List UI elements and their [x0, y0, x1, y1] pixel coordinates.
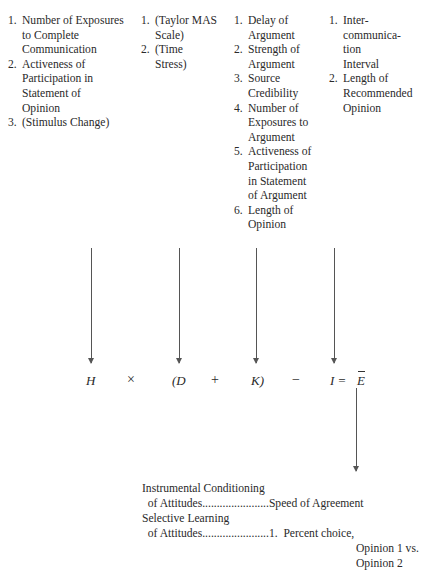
list-item: 3. (Stimulus Change): [8, 116, 158, 131]
list-item: 1. Number of Exposures to Complete Commu…: [8, 14, 158, 58]
equation-E: E: [357, 373, 365, 389]
list-item: 3. Source Credibility: [234, 72, 324, 101]
equation-K: K): [251, 373, 264, 389]
arrow-down-icon: [334, 248, 335, 363]
output-line-2: of Attitudes.......................Speed…: [142, 497, 364, 512]
column-inhibition-variables: 1. Inter- communica- tion Interval 2. Le…: [329, 14, 427, 116]
list-item: 6. Length of Opinion: [234, 204, 324, 233]
output-line-3: Selective Learning: [142, 512, 229, 527]
output-line-6: Opinion 2: [356, 557, 403, 572]
list-item: 2. (Time Stress): [141, 43, 231, 72]
list-item: 1. Delay of Argument: [234, 14, 324, 43]
list-item: 2. Strength of Argument: [234, 43, 324, 72]
equation-H: H: [86, 373, 95, 389]
list-item: 5. Activeness of Participation in Statem…: [234, 145, 324, 203]
arrow-down-icon: [256, 248, 257, 363]
output-line-4: of Attitudes.......................1. Pe…: [142, 527, 354, 542]
list-item: 2. Activeness of Participation in Statem…: [8, 58, 158, 116]
arrow-down-icon: [91, 248, 92, 363]
column-incentive-variables: 1. Delay of Argument 2. Strength of Argu…: [234, 14, 324, 233]
equation-times: ×: [127, 372, 135, 388]
arrow-down-icon: [356, 388, 357, 471]
output-line-5: Opinion 1 vs.: [356, 542, 419, 557]
e-bar: [358, 371, 365, 372]
equation-plus: +: [211, 372, 219, 388]
equation-I-equals: I =: [330, 373, 346, 389]
list-item: 1. Inter- communica- tion Interval: [329, 14, 427, 72]
list-item: 1. (Taylor MAS Scale): [141, 14, 231, 43]
column-habit-variables: 1. Number of Exposures to Complete Commu…: [8, 14, 158, 131]
output-line-1: Instrumental Conditioning: [142, 482, 265, 497]
list-item: 4. Number of Exposures to Argument: [234, 102, 324, 146]
column-drive-variables: 1. (Taylor MAS Scale) 2. (Time Stress): [141, 14, 231, 72]
list-item: 2. Length of Recommended Opinion: [329, 72, 427, 116]
equation-D: (D: [172, 373, 186, 389]
equation-minus: −: [292, 372, 300, 388]
arrow-down-icon: [179, 248, 180, 363]
